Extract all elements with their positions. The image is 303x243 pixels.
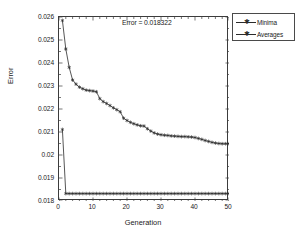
x-tick-label: 30 bbox=[148, 203, 172, 210]
chart-legend: ✱ Minima ✱ Averages bbox=[232, 13, 295, 41]
legend-line-marker-icon: ✱ bbox=[235, 29, 257, 39]
y-axis-label: Error bbox=[6, 68, 15, 84]
y-tick-label: 0.025 bbox=[20, 39, 54, 46]
legend-item-minima[interactable]: ✱ Minima bbox=[235, 16, 292, 28]
x-tick-label: 40 bbox=[182, 203, 206, 210]
y-tick-label: 0.023 bbox=[20, 85, 54, 92]
y-tick-label: 0.019 bbox=[20, 177, 54, 184]
y-tick-label: 0.026 bbox=[20, 16, 54, 23]
legend-item-averages[interactable]: ✱ Averages bbox=[235, 28, 292, 40]
legend-label-averages: Averages bbox=[257, 31, 283, 38]
plot-area bbox=[58, 16, 228, 200]
y-tick-label: 0.024 bbox=[20, 62, 54, 69]
x-tick-label: 20 bbox=[114, 203, 138, 210]
x-tick-label: 50 bbox=[216, 203, 240, 210]
y-tick-label: 0.021 bbox=[20, 131, 54, 138]
x-axis-label: Generation bbox=[58, 218, 228, 227]
legend-line-marker-icon: ✱ bbox=[235, 17, 257, 27]
chart-figure: Error = 0.018322 Error Generation 0.0180… bbox=[0, 0, 303, 243]
y-tick-label: 0.02 bbox=[20, 154, 54, 161]
x-tick-label: 10 bbox=[80, 203, 104, 210]
x-tick-label: 0 bbox=[46, 203, 70, 210]
y-tick-label: 0.022 bbox=[20, 108, 54, 115]
legend-label-minima: Minima bbox=[257, 19, 277, 26]
plot-canvas bbox=[59, 17, 229, 201]
